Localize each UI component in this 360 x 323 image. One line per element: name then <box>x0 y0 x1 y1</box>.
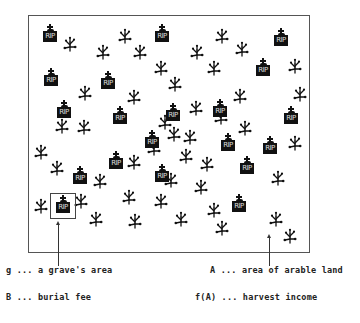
tombstone-label: RIP <box>57 107 71 118</box>
tombstone-label: RIP <box>274 35 288 46</box>
crop-plant-icon <box>214 28 230 44</box>
grave-icon: RIP <box>155 164 169 182</box>
grave-icon: RIP <box>221 133 235 151</box>
grave-icon: RIP <box>284 106 298 124</box>
tombstone-label: RIP <box>213 106 227 117</box>
legend-a: A ... area of arable land <box>210 265 343 275</box>
crop-plant-icon <box>270 170 286 186</box>
crop-plant-icon <box>178 148 194 164</box>
grave-icon: RIP <box>113 106 127 124</box>
crop-plant-icon <box>117 28 133 44</box>
tombstone-label: RIP <box>263 143 277 154</box>
crop-plant-icon <box>193 179 209 195</box>
crop-plant-icon <box>153 193 169 209</box>
legend-b: B ... burial fee <box>6 292 91 302</box>
grave-icon: RIP <box>109 151 123 169</box>
tombstone-label: RIP <box>145 137 159 148</box>
grave-icon: RIP <box>256 58 270 76</box>
grave-icon: RIP <box>166 103 180 121</box>
grave-icon: RIP <box>44 68 58 86</box>
crop-plant-icon <box>189 44 205 60</box>
crop-plant-icon <box>95 44 111 60</box>
crop-plant-icon <box>49 160 65 176</box>
grave-pointer-line <box>58 224 59 266</box>
grave-pointer-arrowhead <box>56 221 60 225</box>
grave-icon: RIP <box>155 24 169 42</box>
crop-plant-icon <box>92 173 108 189</box>
crop-plant-icon <box>182 129 198 145</box>
crop-plant-icon <box>33 144 49 160</box>
crop-plant-icon <box>173 211 189 227</box>
crop-plant-icon <box>287 58 303 74</box>
crop-plant-icon <box>188 100 204 116</box>
crop-plant-icon <box>282 228 298 244</box>
crop-plant-icon <box>77 85 93 101</box>
tombstone-label: RIP <box>101 78 115 89</box>
tombstone-label: RIP <box>256 65 270 76</box>
legend-fa: f(A) ... harvest income <box>195 292 317 302</box>
tombstone-label: RIP <box>221 140 235 151</box>
land-pointer-arrowhead <box>267 234 271 238</box>
crop-plant-icon <box>126 154 142 170</box>
crop-plant-icon <box>234 41 250 57</box>
legend-g: g ... a grave's area <box>6 265 112 275</box>
crop-plant-icon <box>62 36 78 52</box>
tombstone-label: RIP <box>73 173 87 184</box>
crop-plant-icon <box>167 76 183 92</box>
grave-area-highlight <box>50 193 76 219</box>
tombstone-label: RIP <box>232 201 246 212</box>
tombstone-label: RIP <box>284 113 298 124</box>
tombstone-label: RIP <box>155 31 169 42</box>
crop-plant-icon <box>54 118 70 134</box>
crop-plant-icon <box>206 60 222 76</box>
land-pointer-line <box>269 238 270 266</box>
grave-icon: RIP <box>263 136 277 154</box>
crop-plant-icon <box>292 86 308 102</box>
crop-plant-icon <box>126 89 142 105</box>
grave-icon: RIP <box>101 71 115 89</box>
crop-plant-icon <box>232 88 248 104</box>
crop-plant-icon <box>287 135 303 151</box>
crop-plant-icon <box>88 211 104 227</box>
grave-icon: RIP <box>57 100 71 118</box>
crop-plant-icon <box>127 213 143 229</box>
grave-icon: RIP <box>232 194 246 212</box>
crop-plant-icon <box>268 211 284 227</box>
tombstone-label: RIP <box>155 171 169 182</box>
tombstone-label: RIP <box>240 163 254 174</box>
grave-icon: RIP <box>73 166 87 184</box>
crop-plant-icon <box>214 220 230 236</box>
tombstone-label: RIP <box>113 113 127 124</box>
crop-plant-icon <box>33 198 49 214</box>
grave-icon: RIP <box>274 28 288 46</box>
tombstone-label: RIP <box>43 31 57 42</box>
crop-plant-icon <box>199 156 215 172</box>
grave-icon: RIP <box>240 156 254 174</box>
crop-plant-icon <box>121 189 137 205</box>
crop-plant-icon <box>132 44 148 60</box>
grave-icon: RIP <box>213 99 227 117</box>
crop-plant-icon <box>237 120 253 136</box>
crop-plant-icon <box>76 119 92 135</box>
crop-plant-icon <box>153 60 169 76</box>
tombstone-label: RIP <box>166 110 180 121</box>
tombstone-label: RIP <box>44 75 58 86</box>
grave-icon: RIP <box>145 130 159 148</box>
tombstone-label: RIP <box>109 158 123 169</box>
crop-plant-icon <box>206 202 222 218</box>
grave-icon: RIP <box>43 24 57 42</box>
